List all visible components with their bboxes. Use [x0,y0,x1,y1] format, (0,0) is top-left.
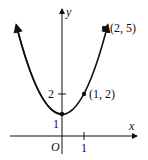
point-0-1 [60,112,64,116]
y-tick-label-2: 2 [48,87,54,101]
x-axis-label: x [128,119,135,133]
y-tick-label-1: 1 [53,117,59,131]
point-label-2-5: (2, 5) [110,21,136,35]
parabola-graph: y x O 1 1 2 (1, 2) (2, 5) [0,0,148,160]
point-label-1-2: (1, 2) [89,87,115,101]
point-1-2 [82,92,86,96]
y-axis-label: y [65,5,72,19]
point-2-5 [102,26,106,30]
x-tick-label-1: 1 [81,141,87,155]
origin-label: O [51,140,60,154]
